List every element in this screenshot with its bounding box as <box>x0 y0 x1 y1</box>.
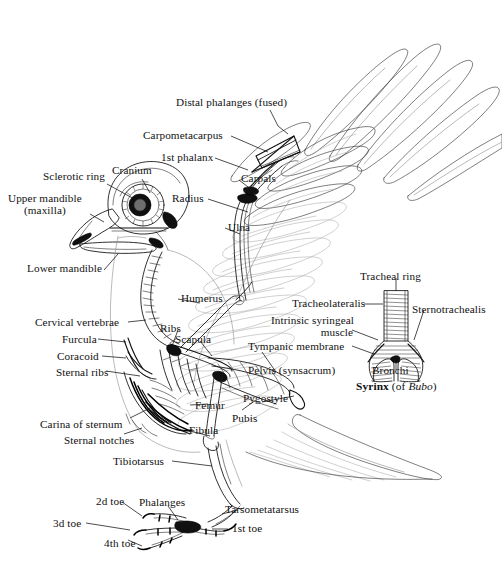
label-pelvis-synsacrum: Pelvis (synsacrum) <box>248 364 335 376</box>
label-lower-mandible: Lower mandible <box>27 262 102 274</box>
inset-caption-bold: Syrinx <box>356 380 389 392</box>
label-tracheal-ring: Tracheal ring <box>360 270 421 282</box>
label-distal-phalanges: Distal phalanges (fused) <box>176 96 287 108</box>
label-cranium: Cranium <box>112 164 152 176</box>
inset-caption-syrinx: Syrinx (of Bubo) <box>356 380 437 392</box>
label-carina-of-sternum: Carina of sternum <box>40 418 122 430</box>
label-intrinsic-syringeal-line1: Intrinsic syringeal <box>271 314 354 326</box>
label-intrinsic-syringeal-line2: muscle <box>321 326 353 338</box>
bird-skeleton-illustration <box>0 0 502 567</box>
label-furcula: Furcula <box>62 333 97 345</box>
label-humerus: Humerus <box>181 292 223 304</box>
label-bronchi: Bronchi <box>372 364 409 376</box>
label-carpometacarpus: Carpometacarpus <box>143 129 223 141</box>
label-3d-toe: 3d toe <box>53 517 81 529</box>
label-pubis: Pubis <box>232 412 257 424</box>
label-scapula: Scapula <box>175 333 211 345</box>
label-sternal-ribs: Sternal ribs <box>56 366 108 378</box>
label-cervical-vertebrae: Cervical vertebrae <box>35 316 119 328</box>
label-2d-toe: 2d toe <box>96 495 124 507</box>
label-femur: Femur <box>195 399 225 411</box>
label-4th-toe: 4th toe <box>104 537 135 549</box>
inset-caption-italic: Bubo <box>408 380 432 392</box>
label-upper-mandible-line1: Upper mandible <box>8 192 82 204</box>
label-tracheolateralis: Tracheolateralis <box>292 297 365 309</box>
label-sternal-notches: Sternal notches <box>64 434 134 446</box>
label-sternotrachealis: Sternotrachealis <box>412 303 486 315</box>
label-coracoid: Coracoid <box>57 350 99 362</box>
inset-caption-close: ) <box>433 380 437 392</box>
label-1st-toe: 1st toe <box>232 522 262 534</box>
label-carpals: Carpals <box>241 172 276 184</box>
label-phalanges: Phalanges <box>139 496 185 508</box>
label-tibiotarsus: Tibiotarsus <box>113 455 164 467</box>
label-radius: Radius <box>172 192 204 204</box>
label-tympanic-membrane: Tympanic membrane <box>248 340 344 352</box>
inset-caption-rest: (of <box>389 380 408 392</box>
label-intrinsic-syringeal-muscle: Intrinsic syringeal muscle <box>271 314 353 339</box>
primary-feathers-group <box>244 44 502 225</box>
label-1st-phalanx: 1st phalanx <box>161 151 213 163</box>
diagram-canvas: Distal phalanges (fused) Carpometacarpus… <box>0 0 502 567</box>
label-tarsometatarsus: Tarsometatarsus <box>225 503 299 515</box>
label-pygostyle: Pygostyle <box>243 392 288 404</box>
label-fibula: Fibula <box>189 424 218 436</box>
label-ulna: Ulna <box>228 221 250 233</box>
label-sclerotic-ring: Sclerotic ring <box>43 170 105 182</box>
label-upper-mandible: Upper mandible (maxilla) <box>8 192 82 217</box>
label-upper-mandible-line2: (maxilla) <box>8 204 82 216</box>
toes-group <box>134 514 236 550</box>
tail-feathers-group <box>246 414 442 481</box>
